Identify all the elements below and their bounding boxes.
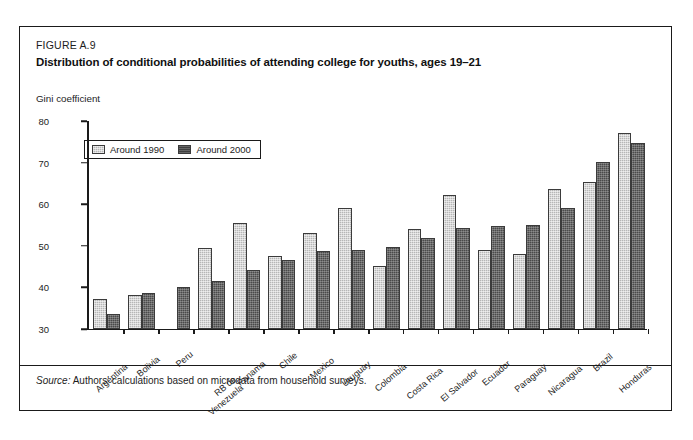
bar-nicaragua-2000 [561,208,575,329]
figure-panel: FIGURE A.9 Distribution of conditional p… [19,26,672,411]
bar-group [193,121,228,329]
y-tick-label: 80 [9,116,49,127]
bar-ecuador-1990 [478,250,492,329]
bar-group [403,121,438,329]
bar-group [158,121,193,329]
bar-group [123,121,158,329]
bar-group [228,121,263,329]
bar-bolivia-1990 [128,295,142,329]
x-tick-mark [508,329,510,334]
bar-group [543,121,578,329]
bar-uruguay-2000 [352,250,366,329]
x-label-paraguay: Paraguay [512,362,548,394]
bar-group [298,121,333,329]
bar-group [613,121,648,329]
y-tick-mark [81,120,87,122]
bar-group [89,121,124,329]
y-axis-title: Gini coefficient [36,93,100,104]
x-tick-mark [438,329,440,334]
bar-group [438,121,473,329]
x-tick-mark [613,329,615,334]
bar-el-salvador-2000 [456,228,470,329]
bar-group [508,121,543,329]
bar-peru-2000 [177,287,191,329]
bar-bolivia-2000 [142,293,156,329]
x-tick-mark [543,329,545,334]
y-tick-label: 40 [9,282,49,293]
bar-paraguay-1990 [513,254,527,329]
bar-argentina-1990 [93,299,107,329]
x-tick-mark [403,329,405,334]
footer-divider [20,365,671,366]
bar-argentina-2000 [107,314,121,329]
bar-costa-rica-1990 [408,229,422,329]
figure-number: FIGURE A.9 [36,39,96,51]
bar-panama-1990 [233,223,247,329]
y-tick-mark [81,245,87,247]
x-tick-mark [298,329,300,334]
bar-group [578,121,613,329]
bar-group [263,121,298,329]
x-tick-mark [193,329,195,334]
x-tick-mark [578,329,580,334]
bar-costa-rica-2000 [421,238,435,329]
source-label: Source: [36,375,70,386]
x-label-nicaragua: Nicaragua [546,363,584,397]
x-label-ecuador: Ecuador [480,359,512,388]
bar-colombia-2000 [386,247,400,329]
bar-honduras-2000 [631,143,645,329]
bar-el-salvador-1990 [443,195,457,329]
bar-group [333,121,368,329]
y-tick-mark [81,328,87,330]
bar-mexico-1990 [303,233,317,330]
y-tick-label: 30 [9,324,49,335]
x-tick-mark [333,329,335,334]
x-tick-mark [648,329,650,334]
bar-series-container [89,121,648,329]
y-tick-mark [81,287,87,289]
figure-title: Distribution of conditional probabilitie… [36,56,481,68]
y-tick-label: 50 [9,240,49,251]
source-text: Authors' calculations based on microdata… [73,375,367,386]
y-tick-label: 70 [9,157,49,168]
x-label-chile: Chile [277,350,299,371]
x-label-brazil: Brazil [591,351,615,373]
x-tick-mark [123,329,125,334]
y-tick-mark [81,162,87,164]
x-label-peru: Peru [173,349,194,369]
bar-honduras-1990 [618,133,632,329]
x-tick-mark [228,329,230,334]
bar-panama-2000 [247,270,261,329]
bar-rb-de-venezuela-2000 [212,281,226,329]
bar-chart: 304050607080 ArgentinaBoliviaPeruRB deVe… [55,119,655,355]
source-note: Source: Authors' calculations based on m… [36,375,366,386]
bar-brazil-1990 [583,182,597,329]
y-tick-label: 60 [9,199,49,210]
x-tick-mark [263,329,265,334]
bar-brazil-2000 [596,162,610,329]
y-tick-mark [81,203,87,205]
bar-nicaragua-1990 [548,189,562,329]
bar-ecuador-2000 [491,226,505,329]
bar-paraguay-2000 [526,225,540,329]
x-tick-mark [158,329,160,334]
bar-chile-1990 [268,256,282,329]
x-tick-mark [368,329,370,334]
bar-colombia-1990 [373,266,387,329]
x-label-honduras: Honduras [617,362,653,395]
bar-chile-2000 [282,260,296,329]
x-label-colombia: Colombia [373,361,409,393]
bar-rb-de-venezuela-1990 [198,248,212,329]
bar-uruguay-1990 [338,208,352,329]
bar-mexico-2000 [317,251,331,329]
bar-group [368,121,403,329]
x-tick-mark [473,329,475,334]
bar-group [473,121,508,329]
